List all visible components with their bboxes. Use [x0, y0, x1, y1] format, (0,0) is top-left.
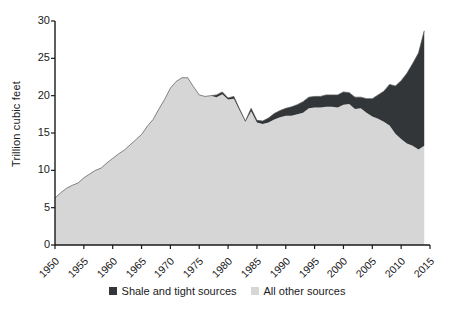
- x-tick-label-1980: 1980: [205, 255, 235, 285]
- legend-swatch-icon: [251, 287, 259, 295]
- x-tick-label-1995: 1995: [291, 255, 321, 285]
- legend-label: All other sources: [264, 285, 346, 297]
- x-tick-label-1960: 1960: [89, 255, 119, 285]
- x-tick-label-2015: 2015: [407, 255, 437, 285]
- x-tick-label-1965: 1965: [118, 255, 148, 285]
- x-tick-label-1950: 1950: [32, 255, 62, 285]
- x-tick-label-2010: 2010: [378, 255, 408, 285]
- x-tick-label-2005: 2005: [349, 255, 379, 285]
- x-tick-label-1970: 1970: [147, 255, 177, 285]
- x-axis-tick-labels: 1950195519601965197019751980198519901995…: [0, 0, 454, 313]
- legend-swatch-icon: [109, 287, 117, 295]
- x-tick-label-2000: 2000: [320, 255, 350, 285]
- gas-production-area-chart: Trillion cubic feet 051015202530 1950195…: [0, 0, 454, 313]
- chart-legend: Shale and tight sourcesAll other sources: [0, 285, 454, 297]
- legend-item-all-other-sources[interactable]: All other sources: [251, 285, 346, 297]
- legend-item-shale-and-tight-sources[interactable]: Shale and tight sources: [109, 285, 237, 297]
- x-tick-label-1975: 1975: [176, 255, 206, 285]
- legend-label: Shale and tight sources: [122, 285, 237, 297]
- x-tick-label-1955: 1955: [60, 255, 90, 285]
- x-tick-label-1990: 1990: [262, 255, 292, 285]
- x-tick-label-1985: 1985: [233, 255, 263, 285]
